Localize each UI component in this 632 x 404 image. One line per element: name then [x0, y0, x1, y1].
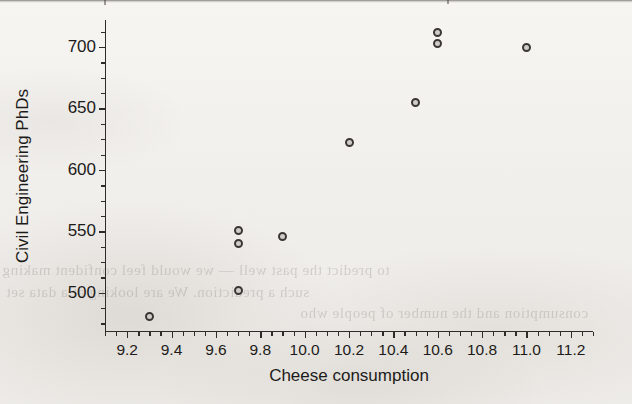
data-point [234, 286, 243, 295]
x-tick-minor [238, 332, 239, 336]
x-tick-label: 11.2 [556, 341, 585, 359]
data-point [411, 98, 420, 107]
data-point [345, 138, 354, 147]
x-tick-label: 10.4 [378, 341, 408, 359]
y-tick-minor [101, 124, 105, 125]
y-tick-label: 650 [68, 98, 96, 118]
x-tick-minor [404, 332, 405, 336]
x-tick-major [526, 332, 527, 338]
y-tick-minor [101, 323, 105, 324]
y-tick-minor [101, 247, 105, 248]
x-tick-minor [460, 332, 461, 336]
x-tick-minor [194, 332, 195, 336]
x-tick-minor [327, 332, 328, 336]
x-tick-major [349, 332, 350, 338]
x-tick-major [172, 332, 173, 338]
x-tick-minor [593, 332, 594, 336]
x-tick-minor [493, 332, 494, 336]
y-tick-major [99, 231, 105, 232]
plot-area: 500550600650700 9.29.49.69.810.010.210.4… [105, 20, 593, 332]
y-axis-title: Civil Engineering PhDs [12, 20, 34, 332]
y-tick-minor [101, 308, 105, 309]
y-tick-minor [101, 155, 105, 156]
y-tick-minor [101, 262, 105, 263]
x-tick-label: 10.8 [467, 341, 497, 359]
x-tick-major [393, 332, 394, 338]
x-tick-minor [149, 332, 150, 336]
x-tick-minor [416, 332, 417, 336]
y-tick-major [99, 47, 105, 48]
data-point [234, 239, 243, 248]
x-tick-minor [549, 332, 550, 336]
y-tick-minor [101, 185, 105, 186]
y-tick-label: 600 [68, 160, 96, 180]
x-tick-major [216, 332, 217, 338]
x-tick-label: 9.6 [205, 341, 227, 359]
y-tick-minor [101, 32, 105, 33]
x-tick-label: 10.0 [290, 341, 320, 359]
data-point [433, 39, 442, 48]
scatter-plot-figure: Civil Engineering PhDs 500550600650700 9… [0, 0, 632, 404]
x-tick-minor [138, 332, 139, 336]
y-tick-major [99, 170, 105, 171]
x-tick-major [438, 332, 439, 338]
x-tick-label: 11.0 [512, 341, 541, 359]
y-tick-minor [101, 201, 105, 202]
y-tick-minor [101, 139, 105, 140]
x-tick-major [482, 332, 483, 338]
x-tick-label: 9.2 [116, 341, 138, 359]
y-tick-minor [101, 62, 105, 63]
x-tick-label: 10.6 [423, 341, 453, 359]
x-tick-minor [582, 332, 583, 336]
x-tick-label: 10.2 [334, 341, 364, 359]
y-tick-label: 500 [68, 283, 96, 303]
x-tick-minor [515, 332, 516, 336]
y-tick-minor [101, 277, 105, 278]
x-tick-minor [294, 332, 295, 336]
x-axis-title: Cheese consumption [105, 366, 593, 386]
x-tick-minor [338, 332, 339, 336]
y-tick-label: 700 [68, 37, 96, 57]
y-axis-line [105, 20, 106, 332]
y-tick-minor [101, 93, 105, 94]
x-tick-major [571, 332, 572, 338]
x-tick-label: 9.8 [249, 341, 271, 359]
data-point [522, 43, 531, 52]
y-tick-minor [101, 216, 105, 217]
x-tick-minor [538, 332, 539, 336]
x-tick-minor [427, 332, 428, 336]
data-point [433, 28, 442, 37]
data-point [145, 312, 154, 321]
x-tick-minor [471, 332, 472, 336]
x-tick-minor [282, 332, 283, 336]
x-tick-minor [560, 332, 561, 336]
x-tick-major [127, 332, 128, 338]
x-tick-minor [105, 332, 106, 336]
y-tick-minor [101, 78, 105, 79]
x-tick-label: 9.4 [161, 341, 183, 359]
x-tick-major [260, 332, 261, 338]
x-tick-minor [205, 332, 206, 336]
data-point [278, 232, 287, 241]
x-tick-minor [249, 332, 250, 336]
x-tick-minor [504, 332, 505, 336]
x-tick-minor [160, 332, 161, 336]
x-tick-minor [316, 332, 317, 336]
x-tick-minor [271, 332, 272, 336]
y-tick-major [99, 108, 105, 109]
x-tick-minor [449, 332, 450, 336]
y-tick-label: 550 [68, 221, 96, 241]
x-tick-minor [183, 332, 184, 336]
x-tick-minor [360, 332, 361, 336]
x-tick-minor [371, 332, 372, 336]
x-tick-minor [227, 332, 228, 336]
y-tick-major [99, 293, 105, 294]
x-tick-minor [382, 332, 383, 336]
data-point [234, 226, 243, 235]
x-tick-major [305, 332, 306, 338]
x-tick-minor [116, 332, 117, 336]
